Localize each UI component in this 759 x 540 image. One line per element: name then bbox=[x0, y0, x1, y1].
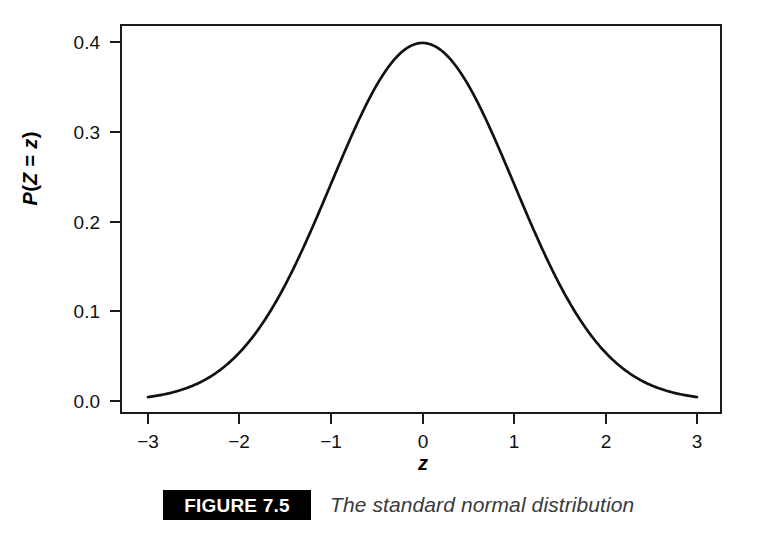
y-axis-ticks bbox=[110, 42, 121, 401]
figure-caption-text: The standard normal distribution bbox=[330, 493, 634, 516]
y-axis-title-z-upper: Z bbox=[19, 172, 41, 185]
x-axis-title: z bbox=[418, 452, 428, 475]
y-tick-label-1: 0.3 bbox=[48, 123, 100, 142]
y-axis-title-z-lower: z bbox=[19, 138, 41, 148]
figure-container: 0.4 0.3 0.2 0.1 0.0 −3 −2 −1 0 1 2 3 P(Z… bbox=[0, 0, 759, 540]
y-tick-label-0: 0.4 bbox=[48, 33, 100, 52]
y-axis-title-p: P bbox=[19, 192, 41, 206]
y-axis-title-equals: = bbox=[19, 149, 41, 173]
normal-distribution-chart bbox=[0, 0, 759, 478]
x-tick-label-5: 2 bbox=[601, 432, 612, 451]
figure-caption: FIGURE 7.5 The standard normal distribut… bbox=[0, 486, 759, 540]
x-tick-label-6: 3 bbox=[692, 432, 703, 451]
y-axis-title-open-paren: ( bbox=[19, 185, 41, 192]
y-tick-label-4: 0.0 bbox=[48, 392, 100, 411]
x-axis-ticks bbox=[148, 413, 697, 424]
x-tick-label-4: 1 bbox=[509, 432, 520, 451]
y-tick-label-3: 0.1 bbox=[48, 302, 100, 321]
chart-plot-area: 0.4 0.3 0.2 0.1 0.0 −3 −2 −1 0 1 2 3 P(Z… bbox=[0, 0, 759, 478]
x-tick-label-3: 0 bbox=[418, 432, 429, 451]
x-tick-label-1: −2 bbox=[228, 432, 250, 451]
figure-number-label: FIGURE 7.5 bbox=[184, 496, 289, 515]
x-tick-label-2: −1 bbox=[320, 432, 342, 451]
y-axis-title-close-paren: ) bbox=[19, 131, 41, 138]
x-tick-label-0: −3 bbox=[137, 432, 159, 451]
normal-density-curve bbox=[148, 43, 697, 397]
y-tick-label-2: 0.2 bbox=[48, 213, 100, 232]
figure-number-badge: FIGURE 7.5 bbox=[163, 490, 311, 520]
plot-frame bbox=[121, 25, 721, 413]
y-axis-title: P(Z = z) bbox=[19, 162, 42, 206]
